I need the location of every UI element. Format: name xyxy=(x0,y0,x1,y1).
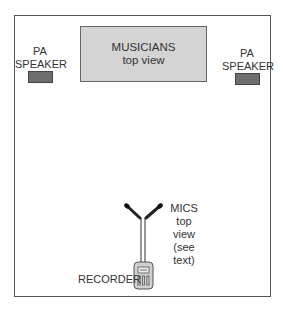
recorder-label: RECORDER xyxy=(78,273,141,286)
mics-label: MICS top view (see text) xyxy=(164,202,204,267)
mics-label-line3: (see text) xyxy=(164,241,204,267)
mic-right-icon xyxy=(146,202,164,218)
mics-label-line1: MICS xyxy=(164,202,204,215)
mics-and-recorder-graphic xyxy=(0,0,283,311)
mics-label-line2: top view xyxy=(164,215,204,241)
mic-cables xyxy=(141,218,145,262)
mic-left-icon xyxy=(123,202,140,218)
